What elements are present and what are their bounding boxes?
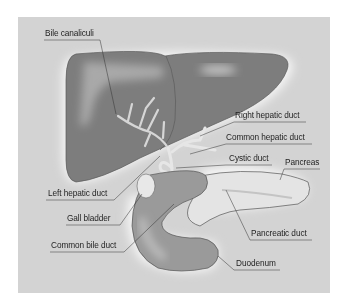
label-right-hepatic-duct: Right hepatic duct	[235, 110, 300, 121]
label-gall-bladder: Gall bladder	[67, 213, 111, 224]
gall-bladder	[137, 174, 155, 198]
label-pancreas: Pancreas	[285, 157, 319, 168]
anatomy-illustration	[0, 0, 342, 302]
label-pancreatic-duct: Pancreatic duct	[251, 228, 307, 239]
label-left-hepatic-duct: Left hepatic duct	[48, 188, 107, 199]
label-bile-canaliculi: Bile canaliculi	[45, 28, 94, 39]
label-duodenum: Duodenum	[236, 258, 276, 269]
label-cystic-duct: Cystic duct	[229, 153, 268, 164]
label-common-hepatic-duct: Common hepatic duct	[226, 132, 305, 143]
label-common-bile-duct: Common bile duct	[51, 240, 116, 251]
